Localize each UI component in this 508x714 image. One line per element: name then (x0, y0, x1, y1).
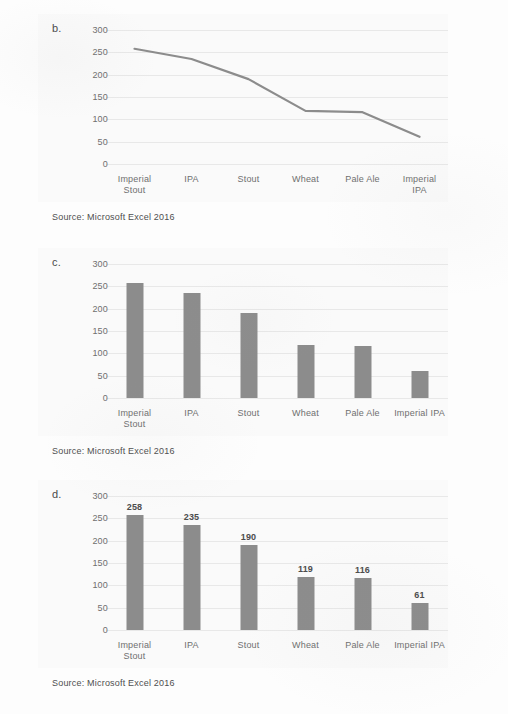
x-axis-tick-label-line: IPA (166, 174, 218, 185)
x-axis-tick-label-line: Imperial IPA (377, 640, 463, 651)
bar (126, 283, 143, 398)
x-axis-tick-label: Imperial IPA (377, 640, 463, 651)
x-axis-tick-label: Imperial IPA (377, 408, 463, 419)
source-caption-c: Source: Microsoft Excel 2016 (52, 446, 175, 456)
bar-value-label: 119 (298, 564, 313, 574)
bar-value-label: 116 (355, 565, 370, 575)
bar (183, 293, 200, 398)
line-path (135, 49, 420, 137)
bar (354, 346, 371, 398)
source-caption-d: Source: Microsoft Excel 2016 (52, 678, 175, 688)
x-axis-tick-label-line: Imperial IPA (377, 408, 463, 419)
bar (411, 371, 428, 398)
x-axis-tick-label: Stout (223, 174, 275, 185)
x-axis-tick-label-line: IPA (377, 185, 463, 196)
bar (297, 345, 314, 398)
x-axis-tick-label-line: Imperial (377, 174, 463, 185)
x-axis-tick-label-line: Stout (92, 419, 178, 430)
bar (240, 313, 257, 398)
source-caption-b: Source: Microsoft Excel 2016 (52, 212, 175, 222)
bar-value-label: 258 (127, 502, 143, 512)
x-axis-tick-label-line: Stout (92, 185, 178, 196)
x-axis-tick-label-line: Stout (223, 174, 275, 185)
bar-value-label: 61 (414, 590, 424, 600)
x-axis-tick-label-line: Stout (92, 651, 178, 662)
bar-value-label: 190 (241, 532, 257, 542)
x-axis-tick-label-line: Wheat (280, 174, 332, 185)
x-axis-tick-label: Wheat (280, 174, 332, 185)
x-axis-tick-label: IPA (166, 174, 218, 185)
bar-value-label: 235 (184, 512, 200, 522)
x-axis-tick-label: ImperialIPA (377, 174, 463, 196)
